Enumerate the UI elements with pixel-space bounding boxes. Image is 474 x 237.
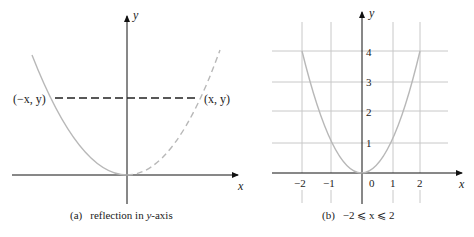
x-tick-2: 2	[417, 177, 423, 189]
panel-a-y-label: y	[132, 8, 139, 22]
x-tick-neg2: −2	[294, 177, 306, 189]
panel-a-dashed-curve	[127, 50, 220, 175]
panel-b-caption: (b)−2 ⩽ x ⩽ 2	[322, 209, 395, 222]
panel-a: y x (−x, y) (x, y) (a)reflection in y-ax…	[12, 8, 244, 222]
panel-b-y-label: y	[368, 6, 375, 20]
left-point-label: (−x, y)	[13, 92, 46, 106]
panel-b-grid	[272, 22, 448, 203]
y-tick-2: 2	[366, 106, 372, 118]
panel-b: y x 4 3 2 1 −2 −1 0 1 2 (b)−2 ⩽ x ⩽ 2	[272, 6, 465, 222]
y-tick-4: 4	[366, 46, 372, 58]
panel-a-solid-curve	[32, 55, 127, 175]
y-tick-1: 1	[366, 137, 372, 149]
panel-b-x-label: x	[458, 177, 465, 191]
panel-a-caption: (a)reflection in y-axis	[70, 209, 173, 222]
panel-a-x-label: x	[237, 179, 244, 193]
right-point-label: (x, y)	[204, 92, 230, 106]
x-tick-neg1: −1	[323, 177, 335, 189]
panel-b-parabola	[302, 51, 420, 173]
x-tick-0: 0	[369, 177, 375, 189]
x-tick-1: 1	[390, 177, 396, 189]
y-tick-3: 3	[366, 76, 372, 88]
figure: y x (−x, y) (x, y) (a)reflection in y-ax…	[0, 0, 474, 237]
